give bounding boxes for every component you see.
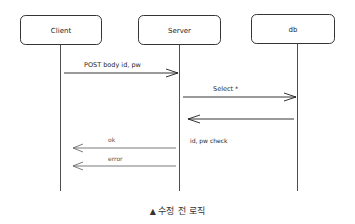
actor-server: Server [139,16,221,45]
caption-text: 수정 전 로직 [158,206,205,216]
message-select: Select * [183,85,296,101]
actor-label-db: db [289,26,298,34]
message-post: POST body id, pw [64,61,178,77]
actor-client: Client [21,16,102,45]
figure-caption: ▲수정 전 로직 [0,204,355,217]
actor-label-server: Server [168,27,191,35]
message-ok: ok [73,136,176,152]
triangle-up-icon: ▲ [150,207,156,216]
actor-label-client: Client [51,27,72,35]
note-id-pw-check: id, pw check [190,137,228,145]
message-label-error: error [108,155,123,162]
message-label-ok: ok [108,136,116,143]
message-label-post: POST body id, pw [84,61,142,69]
sequence-diagram: Client Server db POST body id, pw Select… [0,0,355,224]
message-db-return [188,115,294,123]
message-error: error [73,155,176,170]
message-label-select: Select * [213,85,239,93]
actor-db: db [252,15,335,44]
